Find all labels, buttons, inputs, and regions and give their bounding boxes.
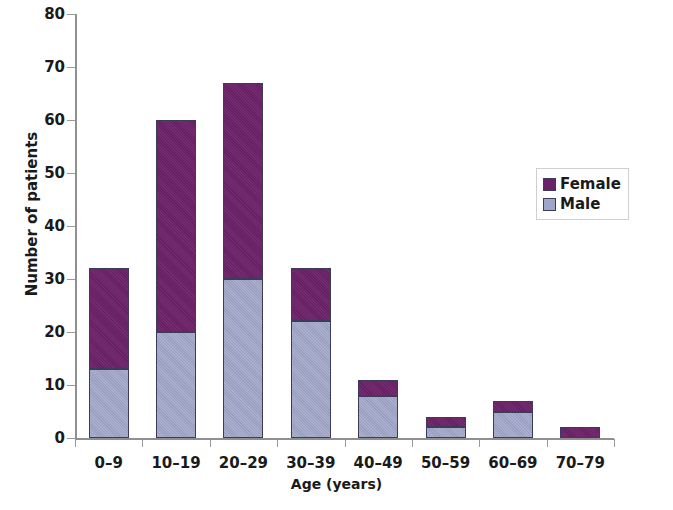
x-tick-label: 10–19 xyxy=(142,454,209,472)
x-tick-mark xyxy=(412,439,413,447)
bar-segment-female[interactable] xyxy=(560,427,600,438)
y-tick-mark xyxy=(67,226,75,227)
x-tick-mark xyxy=(614,439,615,447)
y-axis-title: Number of patients xyxy=(23,104,41,324)
x-tick-mark xyxy=(345,439,346,447)
y-tick-mark xyxy=(67,279,75,280)
bar-segment-female[interactable] xyxy=(358,380,398,396)
x-tick-mark xyxy=(277,439,278,447)
y-tick-label: 80 xyxy=(44,5,65,23)
bar-group[interactable] xyxy=(426,417,466,438)
bar-group[interactable] xyxy=(560,427,600,438)
bar-segment-male[interactable] xyxy=(89,369,129,438)
y-tick-label: 30 xyxy=(44,270,65,288)
y-tick-mark xyxy=(67,438,75,439)
x-tick-mark xyxy=(210,439,211,447)
bar-segment-female[interactable] xyxy=(223,83,263,279)
x-tick-mark xyxy=(75,439,76,447)
x-tick-label: 40–49 xyxy=(345,454,412,472)
y-tick-label: 20 xyxy=(44,323,65,341)
y-tick-mark xyxy=(67,14,75,15)
x-tick-label: 70–79 xyxy=(547,454,614,472)
legend-swatch-icon xyxy=(543,178,556,191)
bar-group[interactable] xyxy=(291,268,331,438)
x-tick-label: 20–29 xyxy=(210,454,277,472)
y-tick-label: 60 xyxy=(44,111,65,129)
bar-segment-male[interactable] xyxy=(493,412,533,439)
y-tick-label: 70 xyxy=(44,58,65,76)
x-tick-mark xyxy=(479,439,480,447)
x-tick-label: 60–69 xyxy=(479,454,546,472)
y-tick-label: 40 xyxy=(44,217,65,235)
y-tick-mark xyxy=(67,120,75,121)
bar-group[interactable] xyxy=(223,83,263,438)
bar-segment-female[interactable] xyxy=(156,120,196,332)
bar-segment-male[interactable] xyxy=(156,332,196,438)
y-tick-mark xyxy=(67,173,75,174)
x-tick-label: 30–39 xyxy=(277,454,344,472)
chart-legend: FemaleMale xyxy=(536,168,629,220)
legend-item[interactable]: Male xyxy=(543,194,621,214)
bar-segment-female[interactable] xyxy=(291,268,331,321)
legend-swatch-icon xyxy=(543,198,556,211)
y-axis-line xyxy=(75,14,77,439)
bar-group[interactable] xyxy=(358,380,398,438)
bar-segment-male[interactable] xyxy=(223,279,263,438)
bar-segment-female[interactable] xyxy=(89,268,129,369)
y-tick-label: 50 xyxy=(44,164,65,182)
bar-segment-male[interactable] xyxy=(291,321,331,438)
x-tick-label: 0–9 xyxy=(75,454,142,472)
y-tick-label: 0 xyxy=(55,429,65,447)
y-tick-label: 10 xyxy=(44,376,65,394)
plot-area: 01020304050607080 0–910–1920–2930–3940–4… xyxy=(75,14,614,438)
bar-segment-female[interactable] xyxy=(426,417,466,428)
legend-item[interactable]: Female xyxy=(543,174,621,194)
bar-group[interactable] xyxy=(493,401,533,438)
chart-figure: Number of patients 01020304050607080 0–9… xyxy=(0,0,673,510)
x-tick-label: 50–59 xyxy=(412,454,479,472)
bar-segment-male[interactable] xyxy=(358,396,398,438)
bar-segment-male[interactable] xyxy=(426,427,466,438)
y-tick-mark xyxy=(67,385,75,386)
y-tick-mark xyxy=(67,67,75,68)
y-tick-mark xyxy=(67,332,75,333)
bar-group[interactable] xyxy=(89,268,129,438)
legend-label: Male xyxy=(560,197,600,212)
bar-segment-female[interactable] xyxy=(493,401,533,412)
x-tick-mark xyxy=(547,439,548,447)
legend-label: Female xyxy=(560,177,621,192)
bar-group[interactable] xyxy=(156,120,196,438)
x-axis-title: Age (years) xyxy=(0,476,673,492)
x-tick-mark xyxy=(142,439,143,447)
